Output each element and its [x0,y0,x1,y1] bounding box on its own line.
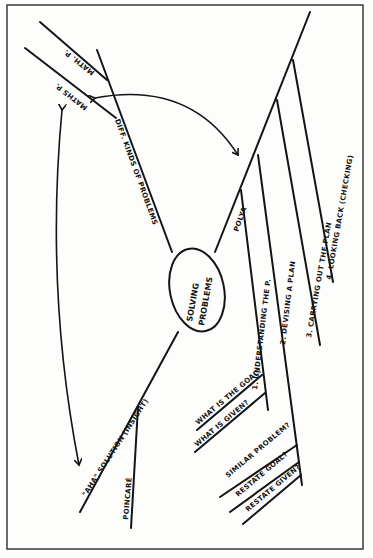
step4-line [293,60,333,282]
center-label-line2: PROBLEMS [197,276,214,326]
insight-maths-arrow [56,110,79,465]
maths-p-label: MATHS P. [54,81,90,111]
step4-label: 4. LOOKING BACK (CHECKING) [325,154,355,280]
kinds-label: DIFF. KINDS OF PROBLEMS [113,118,159,226]
mind-map-drawing: DIFF. KINDS OF PROBLEMS MATH. P. MATHS P… [0,0,373,558]
mind-map-canvas: DIFF. KINDS OF PROBLEMS MATH. P. MATHS P… [0,0,373,558]
branch-kinds-of-problems: DIFF. KINDS OF PROBLEMS MATH. P. MATHS P… [25,22,172,252]
step2-label: 2. DEVISING A PLAN [279,261,297,346]
branch-insight: "AHA" SOLUTION (INSIGHT) POINCARÉ [80,332,178,528]
restate-given-label: RESTATE GIVEN? [244,463,302,513]
center-node: SOLVING PROBLEMS [162,243,232,336]
insight-label: "AHA" SOLUTION (INSIGHT) [81,397,150,498]
math-p-label: MATH. P. [63,48,97,77]
kinds-branch-line [97,50,172,252]
polya-main-line [215,12,310,252]
